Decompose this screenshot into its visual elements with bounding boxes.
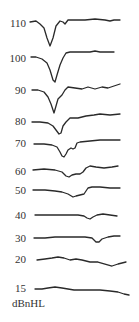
intensity-label: 100: [10, 52, 27, 64]
intensity-label: 90: [15, 84, 27, 96]
waveform-trace: [33, 166, 118, 177]
intensity-label: 30: [15, 232, 27, 244]
abr-waveform-chart: 110100908070605040302015 dBnHL: [0, 0, 139, 322]
waveform-trace: [35, 214, 117, 219]
intensity-label: 110: [10, 17, 27, 29]
waveform-trace: [31, 51, 114, 82]
waveform-trace: [34, 236, 120, 242]
waveform-traces: [30, 19, 129, 295]
intensity-label: 40: [15, 209, 27, 221]
waveform-trace: [32, 84, 120, 113]
waveform-trace: [30, 19, 120, 46]
intensity-label: 50: [15, 184, 27, 196]
waveform-trace: [37, 257, 126, 266]
intensity-labels: 110100908070605040302015: [10, 17, 27, 294]
waveform-trace: [33, 187, 120, 197]
intensity-label: 60: [15, 165, 27, 177]
intensity-label: 20: [15, 253, 27, 265]
intensity-label: 80: [15, 115, 27, 127]
unit-label: dBnHL: [12, 297, 45, 309]
waveform-trace: [35, 287, 129, 295]
intensity-label: 70: [15, 137, 27, 149]
intensity-label: 15: [15, 282, 27, 294]
waveform-trace: [32, 114, 120, 134]
waveform-trace: [34, 140, 120, 157]
